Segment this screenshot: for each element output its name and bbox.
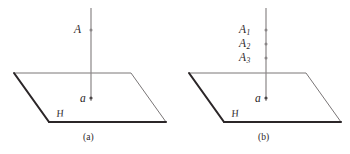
point-label-A1-sub: 1 [247, 28, 251, 37]
point-label-A2-base: A [239, 37, 246, 49]
point-marker-a [264, 96, 267, 99]
plane-label-H: H [231, 108, 239, 119]
point-marker-A3 [265, 57, 268, 60]
point-label-A2: A2 [239, 38, 250, 50]
plane-label-H: H [56, 108, 64, 119]
point-label-A1-base: A [239, 23, 246, 35]
point-label-A3: A3 [239, 52, 250, 64]
point-label-A-base: A [74, 23, 81, 35]
figure-root: A a H (a) A1 [0, 0, 350, 154]
point-label-A2-sub: 2 [247, 42, 251, 51]
point-marker-A2 [265, 43, 268, 46]
plane-b-left-edge [189, 73, 224, 122]
point-marker-A1 [265, 29, 268, 32]
diagram-panel-b: A1 A2 A3 a H (b) [175, 0, 350, 154]
caption-b: (b) [258, 133, 269, 143]
caption-a: (a) [83, 133, 94, 143]
point-label-A: A [74, 24, 81, 36]
point-marker-a [89, 96, 92, 99]
diagram-a-graphic [0, 0, 175, 154]
point-marker-A [90, 29, 93, 32]
plane-b-right-edge [306, 73, 341, 122]
point-label-A1: A1 [239, 24, 250, 36]
foot-label-a: a [80, 93, 86, 105]
plane-a-right-edge [131, 73, 166, 122]
plane-a-left-edge [14, 73, 49, 122]
diagram-b-graphic [175, 0, 350, 154]
diagram-panel-a: A a H (a) [0, 0, 175, 154]
foot-label-a: a [255, 93, 261, 105]
point-label-A3-base: A [239, 51, 246, 63]
point-label-A3-sub: 3 [247, 56, 251, 65]
